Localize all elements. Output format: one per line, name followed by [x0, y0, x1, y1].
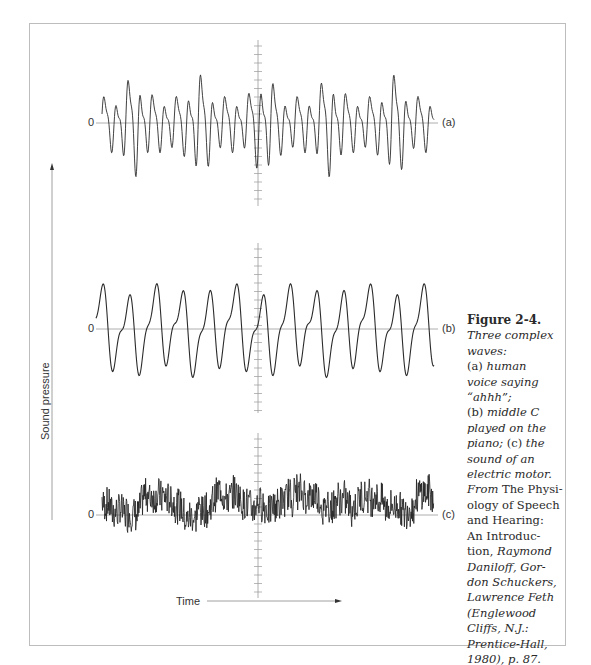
caption-line: Three complex — [467, 328, 563, 343]
wave-label-c: (c) — [442, 508, 455, 520]
figure-caption: Figure 2-4. Three complexwaves:(a) human… — [467, 313, 563, 665]
caption-line: 1980), p. 87. — [467, 652, 563, 665]
wave-label-a: (a) — [442, 116, 455, 128]
caption-line: played on the — [467, 421, 563, 436]
figure-title: Figure 2-4. — [467, 313, 563, 328]
caption-line: ology of Speech — [467, 498, 563, 513]
waveform-b — [96, 284, 434, 378]
caption-line: (a) human — [467, 359, 563, 374]
x-axis-arrow-icon — [335, 599, 342, 603]
caption-line: An Introduc- — [467, 529, 563, 544]
caption-line: (Englewood — [467, 606, 563, 621]
caption-line: sound of an — [467, 452, 563, 467]
zero-label-c: 0 — [88, 508, 94, 520]
caption-line: From The Physi- — [467, 482, 563, 497]
caption-line: (b) middle C — [467, 405, 563, 420]
zero-label-a: 0 — [88, 116, 94, 128]
caption-line: don Schuckers, — [467, 575, 563, 590]
caption-line: Lawrence Feth — [467, 590, 563, 605]
caption-line: “ahhh”; — [467, 390, 563, 405]
caption-line: Prentice-Hall, — [467, 637, 563, 652]
waveform-c — [102, 474, 434, 533]
y-axis-arrow-icon — [50, 163, 54, 170]
x-axis-label: Time — [176, 595, 200, 607]
wave-label-b: (b) — [442, 322, 455, 334]
caption-line: Cliffs, N.J.: — [467, 621, 563, 636]
caption-line: voice saying — [467, 375, 563, 390]
caption-body: Three complexwaves:(a) humanvoice saying… — [467, 328, 563, 665]
caption-line: piano; (c) the — [467, 436, 563, 451]
caption-line: Daniloff, Gor- — [467, 560, 563, 575]
y-axis-label: Sound pressure — [39, 362, 51, 440]
waveform-a — [102, 75, 434, 177]
caption-line: and Hearing: — [467, 513, 563, 528]
zero-label-b: 0 — [88, 322, 94, 334]
caption-line: waves: — [467, 344, 563, 359]
caption-line: electric motor. — [467, 467, 563, 482]
caption-line: tion, Raymond — [467, 544, 563, 559]
